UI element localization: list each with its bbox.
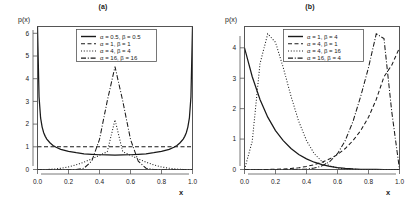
svg-text:1: 1 xyxy=(25,143,29,150)
legend-label-0: α = 1, β = 4 xyxy=(307,34,338,40)
svg-text:3: 3 xyxy=(25,98,29,105)
svg-text:6: 6 xyxy=(25,30,29,37)
panel-a-legend: α = 0.5, β = 0.5α = 1, β = 1α = 4, β = 4… xyxy=(77,30,157,62)
svg-text:0.6: 0.6 xyxy=(126,178,135,185)
beta-distribution-figure: (a) p(x) x 0123456 0.00.20.40.60.81.0 α … xyxy=(0,0,413,206)
legend-label-1: α = 1, β = 1 xyxy=(100,41,131,47)
svg-text:3: 3 xyxy=(232,75,236,82)
legend-label-2: α = 4, β = 4 xyxy=(100,48,131,54)
curve-1 xyxy=(245,48,400,170)
legend-label-0: α = 0.5, β = 0.5 xyxy=(100,34,141,40)
panel-b-legend: α = 1, β = 4α = 4, β = 1α = 4, β = 16α =… xyxy=(284,30,364,62)
panel-a-plot: 0123456 0.00.20.40.60.81.0 α = 0.5, β = … xyxy=(0,0,206,206)
curve-2 xyxy=(38,120,193,170)
curve-3 xyxy=(38,67,193,170)
svg-text:2: 2 xyxy=(232,105,236,112)
svg-text:1.0: 1.0 xyxy=(395,178,404,185)
svg-text:0: 0 xyxy=(25,166,29,173)
legend-label-1: α = 4, β = 1 xyxy=(307,41,338,47)
svg-text:0.6: 0.6 xyxy=(333,178,342,185)
svg-text:0.2: 0.2 xyxy=(64,178,73,185)
panel-b-x-axis: 0.00.20.40.60.81.0 xyxy=(240,170,404,186)
panel-b: (b) p(x) x 01234 0.00.20.40.60.81.0 α = … xyxy=(207,0,413,206)
svg-text:0.4: 0.4 xyxy=(95,178,104,185)
svg-text:0.4: 0.4 xyxy=(302,178,311,185)
svg-text:0.0: 0.0 xyxy=(240,178,249,185)
svg-text:0.0: 0.0 xyxy=(33,178,42,185)
panel-b-plot: 01234 0.00.20.40.60.81.0 α = 1, β = 4α =… xyxy=(207,0,413,206)
legend-label-3: α = 16, β = 16 xyxy=(100,55,138,61)
svg-text:0.2: 0.2 xyxy=(271,178,280,185)
panel-b-y-axis: 01234 xyxy=(232,36,244,173)
curve-0 xyxy=(245,48,400,170)
svg-text:4: 4 xyxy=(232,44,236,51)
panel-a: (a) p(x) x 0123456 0.00.20.40.60.81.0 α … xyxy=(0,0,206,206)
svg-text:0.8: 0.8 xyxy=(157,178,166,185)
svg-text:2: 2 xyxy=(25,120,29,127)
svg-text:1.0: 1.0 xyxy=(188,178,197,185)
svg-text:0.8: 0.8 xyxy=(364,178,373,185)
svg-text:0: 0 xyxy=(232,166,236,173)
svg-text:4: 4 xyxy=(25,75,29,82)
legend-label-2: α = 4, β = 16 xyxy=(307,48,342,54)
svg-text:5: 5 xyxy=(25,52,29,59)
svg-text:1: 1 xyxy=(232,135,236,142)
panel-a-x-axis: 0.00.20.40.60.81.0 xyxy=(33,170,197,186)
legend-label-3: α = 16, β = 4 xyxy=(307,55,342,61)
panel-a-y-axis: 0123456 xyxy=(25,30,37,173)
